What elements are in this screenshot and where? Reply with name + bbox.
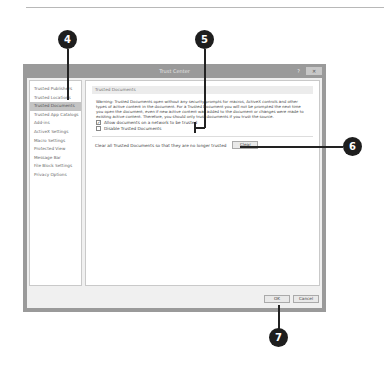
sidebar-item-privacy-options[interactable]: Privacy Options bbox=[30, 171, 81, 180]
trust-center-dialog: Trust Center ? ✕ Trusted Publishers Trus… bbox=[23, 64, 326, 312]
clear-button[interactable]: Clear bbox=[232, 141, 258, 149]
callout-5: 5 bbox=[195, 30, 214, 49]
disable-trusted-checkbox[interactable] bbox=[96, 126, 101, 131]
cancel-button[interactable]: Cancel bbox=[293, 295, 319, 303]
titlebar: Trust Center ? ✕ bbox=[27, 67, 322, 78]
callout-5-bracket-bottom bbox=[194, 127, 196, 133]
callout-7-leader bbox=[278, 305, 280, 329]
callout-5-leader bbox=[204, 49, 206, 128]
sidebar-item-file-block-settings[interactable]: File Block Settings bbox=[30, 162, 81, 171]
sidebar-item-trusted-app-catalogs[interactable]: Trusted App Catalogs bbox=[30, 111, 81, 120]
callout-5-bracket-h bbox=[194, 127, 205, 129]
callout-6-leader bbox=[240, 146, 343, 148]
dialog-body: Trusted Publishers Trusted Locations Tru… bbox=[27, 78, 322, 308]
sidebar-item-macro-settings[interactable]: Macro Settings bbox=[30, 137, 81, 146]
disable-trusted-label[interactable]: Disable Trusted Documents bbox=[104, 126, 161, 131]
top-rule bbox=[26, 7, 384, 8]
callout-4: 4 bbox=[58, 30, 77, 49]
main-panel: Trusted Documents Warning: Trusted Docum… bbox=[85, 80, 320, 286]
allow-network-checkbox[interactable]: ✓ bbox=[96, 120, 101, 125]
sidebar: Trusted Publishers Trusted Locations Tru… bbox=[29, 80, 82, 286]
close-button[interactable]: ✕ bbox=[306, 67, 322, 75]
divider bbox=[92, 136, 313, 137]
callout-7: 7 bbox=[269, 328, 288, 347]
sidebar-item-trusted-publishers[interactable]: Trusted Publishers bbox=[30, 85, 81, 94]
sidebar-item-add-ins[interactable]: Add-ins bbox=[30, 119, 81, 128]
warning-text: Warning: Trusted Documents open without … bbox=[96, 99, 309, 119]
section-title: Trusted Documents bbox=[92, 86, 313, 94]
callout-6: 6 bbox=[343, 137, 362, 156]
callout-4-leader bbox=[67, 49, 69, 100]
allow-network-label[interactable]: Allow documents on a network to be trust… bbox=[104, 120, 197, 125]
dialog-title: Trust Center bbox=[27, 68, 322, 74]
sidebar-item-trusted-documents[interactable]: Trusted Documents bbox=[30, 102, 81, 111]
sidebar-item-protected-view[interactable]: Protected View bbox=[30, 145, 81, 154]
ok-button[interactable]: OK bbox=[264, 295, 290, 303]
sidebar-item-trusted-locations[interactable]: Trusted Locations bbox=[30, 94, 81, 103]
sidebar-item-activex-settings[interactable]: ActiveX Settings bbox=[30, 128, 81, 137]
help-button[interactable]: ? bbox=[297, 68, 300, 74]
clear-row: Clear all Trusted Documents so that they… bbox=[95, 141, 313, 149]
sidebar-item-message-bar[interactable]: Message Bar bbox=[30, 154, 81, 163]
clear-description: Clear all Trusted Documents so that they… bbox=[95, 143, 226, 148]
